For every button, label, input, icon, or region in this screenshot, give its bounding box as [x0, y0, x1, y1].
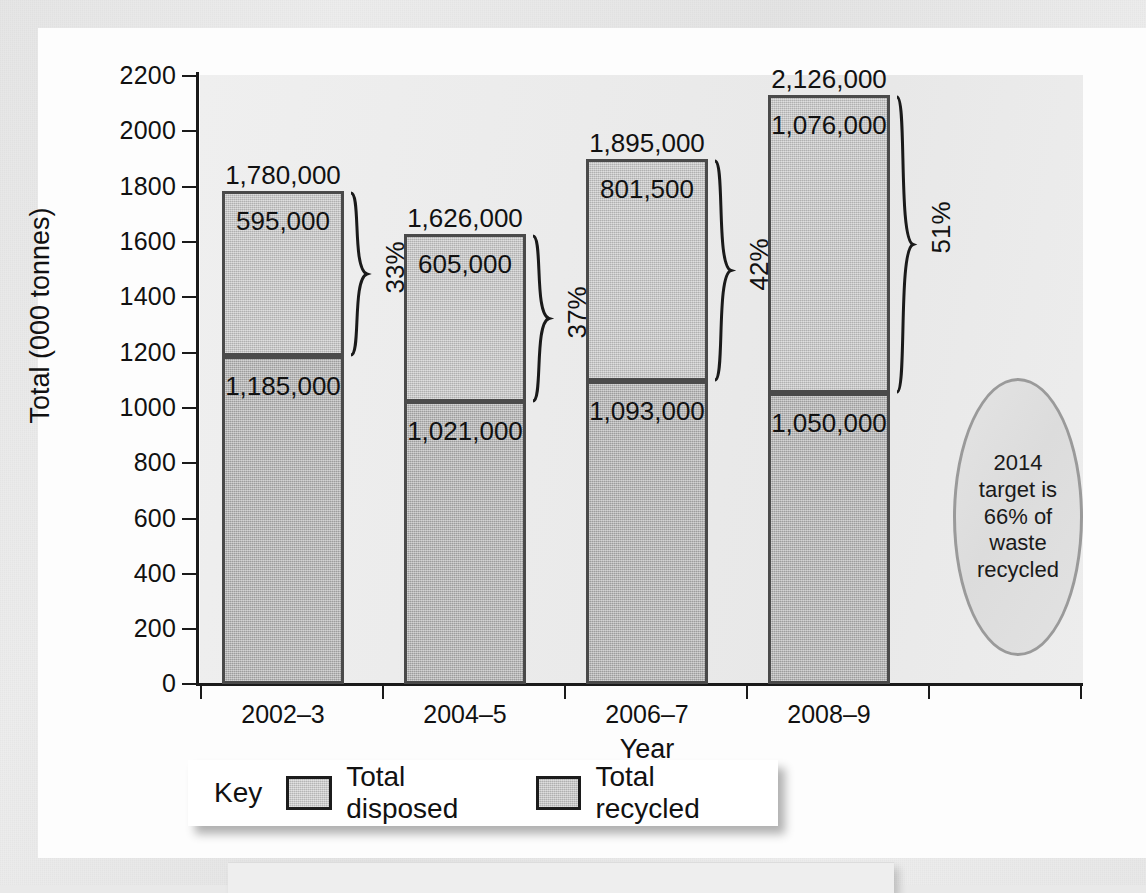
legend-title: Key [214, 777, 262, 809]
bar-segment-disposed-2002-3[interactable]: 1,185,000 [222, 356, 344, 684]
bar-value-disposed-2004-5: 1,021,000 [407, 418, 523, 444]
brace-percent-2006-7: 42% [744, 225, 775, 305]
bar-segment-recycled-2006-7[interactable]: 801,500 [586, 159, 708, 381]
callout-line-1: 2014 [977, 450, 1059, 477]
legend-key-box: Key Total disposed Total recycled [188, 760, 778, 826]
bar-segment-disposed-2006-7[interactable]: 1,093,000 [586, 381, 708, 684]
bar-total-label-2008-9: 2,126,000 [719, 64, 939, 95]
x-tick-4 [928, 684, 930, 699]
y-axis-title: Total (000 tonnes) [25, 116, 56, 516]
callout-line-3: 66% of [977, 504, 1059, 531]
legend-swatch-disposed [286, 776, 332, 810]
bar-total-label-2006-7: 1,895,000 [537, 128, 757, 159]
y-tick-label-800: 800 [112, 450, 176, 475]
y-tick-label-1600: 1600 [112, 229, 176, 254]
y-tick-label-400: 400 [112, 561, 176, 586]
x-tick-2 [564, 684, 566, 699]
x-tick-0 [200, 684, 202, 699]
bar-value-recycled-2002-3: 595,000 [225, 208, 341, 234]
brace-2004-5 [530, 234, 552, 403]
y-tick-1000 [182, 407, 196, 409]
brace-percent-2008-9: 51% [926, 188, 957, 268]
bar-segment-disposed-2004-5[interactable]: 1,021,000 [404, 401, 526, 684]
brace-2008-9 [894, 95, 916, 394]
target-callout-text: 2014 target is 66% of waste recycled [977, 450, 1059, 584]
bar-segment-recycled-2002-3[interactable]: 595,000 [222, 191, 344, 356]
bar-value-recycled-2008-9: 1,076,000 [771, 112, 887, 138]
y-tick-200 [182, 628, 196, 630]
bar-value-disposed-2002-3: 1,185,000 [225, 373, 341, 399]
callout-line-5: recycled [977, 557, 1059, 584]
bar-value-disposed-2006-7: 1,093,000 [589, 398, 705, 424]
y-tick-label-200: 200 [112, 616, 176, 641]
y-tick-2200 [182, 75, 196, 77]
y-tick-0 [182, 683, 196, 685]
x-tick-label-2008-9: 2008–9 [739, 700, 919, 729]
bar-2004-5[interactable]: 605,000 1,021,000 [404, 0, 526, 684]
y-tick-label-1200: 1200 [112, 340, 176, 365]
y-tick-1600 [182, 241, 196, 243]
x-tick-5 [1080, 684, 1082, 699]
legend-label-recycled: Total recycled [595, 761, 744, 825]
y-tick-label-1400: 1400 [112, 284, 176, 309]
bar-2008-9[interactable]: 1,076,000 1,050,000 [768, 0, 890, 684]
y-tick-400 [182, 573, 196, 575]
x-tick-label-2004-5: 2004–5 [375, 700, 555, 729]
legend-swatch-recycled [536, 776, 582, 810]
y-tick-label-1800: 1800 [112, 174, 176, 199]
bar-total-label-2002-3: 1,780,000 [173, 160, 393, 191]
y-tick-label-600: 600 [112, 506, 176, 531]
bar-value-recycled-2006-7: 801,500 [589, 176, 705, 202]
legend-label-disposed: Total disposed [346, 761, 501, 825]
y-tick-label-2200: 2200 [112, 63, 176, 88]
bar-segment-recycled-2004-5[interactable]: 605,000 [404, 234, 526, 402]
y-tick-label-1000: 1000 [112, 395, 176, 420]
partial-caption-box-below [228, 862, 894, 893]
x-tick-label-2002-3: 2002–3 [193, 700, 373, 729]
callout-line-4: waste [977, 530, 1059, 557]
y-tick-600 [182, 518, 196, 520]
callout-line-2: target is [977, 477, 1059, 504]
y-tick-label-0: 0 [112, 671, 176, 696]
y-tick-1200 [182, 352, 196, 354]
bar-segment-disposed-2008-9[interactable]: 1,050,000 [768, 393, 890, 684]
bar-value-recycled-2004-5: 605,000 [407, 251, 523, 277]
brace-percent-2002-3: 33% [380, 228, 411, 308]
x-tick-label-2006-7: 2006–7 [557, 700, 737, 729]
x-tick-3 [746, 684, 748, 699]
brace-2002-3 [348, 191, 370, 357]
y-tick-label-2000: 2000 [112, 118, 176, 143]
y-tick-1400 [182, 296, 196, 298]
bar-segment-recycled-2008-9[interactable]: 1,076,000 [768, 95, 890, 393]
brace-2006-7 [712, 159, 734, 382]
target-callout-ellipse: 2014 target is 66% of waste recycled [953, 378, 1083, 656]
y-tick-2000 [182, 130, 196, 132]
bar-value-disposed-2008-9: 1,050,000 [771, 410, 887, 436]
bar-2002-3[interactable]: 595,000 1,185,000 [222, 0, 344, 684]
y-tick-800 [182, 462, 196, 464]
brace-percent-2004-5: 37% [562, 273, 593, 353]
bar-2006-7[interactable]: 801,500 1,093,000 [586, 0, 708, 684]
x-tick-1 [382, 684, 384, 699]
